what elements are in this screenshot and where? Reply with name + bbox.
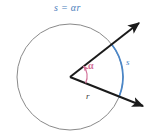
arc-length-formula-label: s = αr	[54, 3, 81, 13]
lower-ray	[70, 77, 143, 106]
angle-alpha-label: α	[88, 61, 94, 71]
arc-length-label: s	[126, 58, 130, 67]
geometry-figure: s = αr s r α	[0, 0, 152, 131]
upper-ray	[70, 23, 139, 77]
blue-arc	[112, 44, 123, 97]
radius-label: r	[86, 92, 90, 101]
angle-arc	[84, 66, 88, 83]
